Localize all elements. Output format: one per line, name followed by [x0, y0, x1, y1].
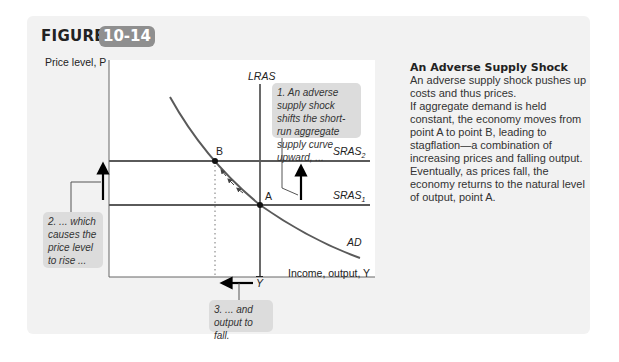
sidebar-caption: An Adverse Supply Shock An adverse suppl…: [410, 61, 590, 204]
y-bar-label: Y: [256, 277, 263, 289]
point-b-label: B: [216, 145, 223, 157]
point-a: [257, 202, 263, 208]
x-axis-label: Income, output, Y: [288, 267, 370, 279]
note2-pointer: [71, 182, 101, 212]
lras-label: LRAS: [248, 70, 275, 82]
y-axis-label: Price level, P: [45, 56, 106, 68]
sras2-label: SRAS2: [333, 145, 366, 159]
annotation-3: 3. ... and output to fall.: [209, 300, 273, 332]
annotation-2: 2. ... which causes the price level to r…: [43, 212, 103, 268]
caption-title: An Adverse Supply Shock: [410, 61, 590, 74]
annotation-1: 1. An adverse supply shock shifts the sh…: [272, 83, 361, 138]
caption-paragraph-1: An adverse supply shock pushes up costs …: [410, 74, 590, 100]
point-a-label: A: [265, 190, 272, 202]
sras1-label: SRAS1: [333, 189, 366, 203]
point-b: [212, 158, 218, 164]
caption-paragraph-2: If aggregate demand is held constant, th…: [410, 100, 590, 204]
ad-label: AD: [347, 236, 362, 248]
